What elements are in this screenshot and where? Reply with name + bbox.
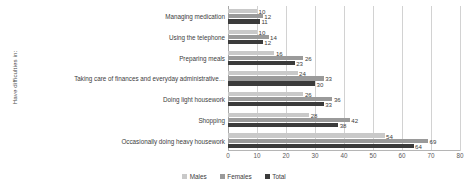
bar-females: 33 (228, 76, 324, 80)
x-axis-tick: 60 (398, 152, 405, 159)
bar-value-label: 33 (325, 101, 332, 108)
bar-males: 10 (228, 9, 257, 13)
bar-females: 14 (228, 35, 269, 39)
bar-value-label: 26 (305, 54, 312, 61)
bar-males: 10 (228, 30, 257, 34)
category-label: Using the telephone (169, 34, 225, 41)
category-label: Taking care of finances and everyday adm… (74, 75, 225, 82)
legend-swatch-icon (265, 174, 270, 179)
bar-females: 42 (228, 118, 350, 122)
bar-females: 36 (228, 97, 332, 101)
x-axis-tick: 10 (253, 152, 260, 159)
bar-females: 12 (228, 14, 263, 18)
bar-males: 16 (228, 51, 274, 55)
bar-value-label: 64 (415, 142, 422, 149)
legend-label: Total (272, 173, 286, 180)
bar-group: Taking care of finances and everyday adm… (228, 68, 460, 89)
bar-females: 69 (228, 139, 428, 143)
bar-chart: Have difficulties in: Managing medicatio… (0, 0, 468, 194)
x-axis-tick: 20 (282, 152, 289, 159)
category-label: Occasionally doing heavy housework (121, 137, 225, 144)
bar-group: Managing medication101211 (228, 6, 460, 27)
bar-value-label: 36 (334, 96, 341, 103)
bar-value-label: 11 (261, 18, 267, 25)
x-axis-tick-labels: 01020304050607080 (228, 152, 460, 164)
x-axis-tick: 80 (456, 152, 463, 159)
bar-males: 26 (228, 92, 303, 96)
x-axis-tick: 40 (340, 152, 347, 159)
x-axis-tick: 30 (311, 152, 318, 159)
bar-group: Doing light housework263633 (228, 89, 460, 110)
bar-group: Shopping284238 (228, 110, 460, 131)
bar-total: 33 (228, 102, 324, 106)
gridline (460, 6, 461, 151)
bar-value-label: 33 (325, 75, 332, 82)
x-axis-tick: 50 (369, 152, 376, 159)
legend-item[interactable]: Females (220, 173, 252, 180)
category-label: Preparing meals (179, 54, 225, 61)
bar-value-label: 12 (264, 39, 271, 46)
x-axis-tick: 70 (427, 152, 434, 159)
bar-value-label: 30 (317, 80, 324, 87)
bar-total: 11 (228, 19, 260, 23)
category-label: Shopping (198, 116, 225, 123)
legend-item[interactable]: Total (265, 173, 286, 180)
bar-total: 30 (228, 81, 315, 85)
bar-males: 24 (228, 71, 298, 75)
bar-males: 28 (228, 113, 309, 117)
bar-total: 23 (228, 61, 295, 65)
chart-legend: MalesFemalesTotal (0, 173, 468, 180)
legend-label: Males (190, 173, 207, 180)
bar-total: 38 (228, 123, 338, 127)
category-label: Managing medication (165, 13, 225, 20)
bar-value-label: 38 (340, 122, 347, 129)
legend-item[interactable]: Males (182, 173, 207, 180)
x-axis-tick: 0 (226, 152, 230, 159)
bar-total: 12 (228, 40, 263, 44)
bar-value-label: 69 (430, 137, 437, 144)
bar-group: Preparing meals162623 (228, 47, 460, 68)
bar-value-label: 23 (296, 59, 303, 66)
bar-males: 54 (228, 133, 385, 137)
legend-swatch-icon (220, 174, 225, 179)
plot-area: Managing medication101211Using the telep… (228, 6, 460, 151)
category-label: Doing light housework (163, 96, 225, 103)
bar-total: 64 (228, 144, 414, 148)
y-axis-title: Have difficulties in: (11, 18, 18, 138)
bar-value-label: 42 (351, 116, 358, 123)
bar-group: Using the telephone101412 (228, 27, 460, 48)
legend-swatch-icon (182, 174, 187, 179)
bar-females: 26 (228, 56, 303, 60)
bar-group: Occasionally doing heavy housework546964 (228, 130, 460, 151)
legend-label: Females (227, 173, 252, 180)
